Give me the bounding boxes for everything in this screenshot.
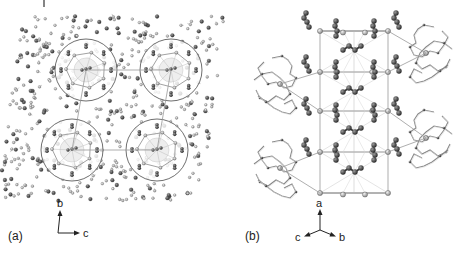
panel-b-axes <box>304 209 336 237</box>
arrow-left-icon <box>304 232 311 237</box>
panel-b-cell <box>254 10 453 199</box>
panel-b-label: (b) <box>245 229 260 243</box>
axis-b-label: b <box>57 197 63 209</box>
arrow-right-icon <box>74 231 80 236</box>
panel-a-axes <box>58 210 81 236</box>
arrow-up-icon <box>58 210 63 216</box>
crystal-structure-figure <box>0 0 473 253</box>
axis-c-label: c <box>83 227 89 239</box>
axis-a-label: a <box>316 197 322 209</box>
panel-a-packing <box>0 14 224 203</box>
arrow-right-icon <box>330 232 337 237</box>
axis-b-label: b <box>339 231 345 243</box>
panel-a-label: (a) <box>8 229 23 243</box>
axis-c-label: c <box>295 231 301 243</box>
packing-atoms <box>0 14 224 203</box>
arrow-up-icon <box>318 209 323 215</box>
